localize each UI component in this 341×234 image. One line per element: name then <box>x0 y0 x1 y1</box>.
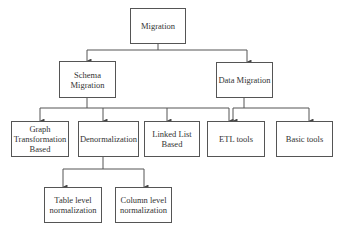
node-basic-tools: Basic tools <box>276 121 333 157</box>
node-column-level-line1: Column level <box>120 195 166 205</box>
node-column-level-line2: normalization <box>120 205 167 215</box>
node-etl-tools: ETL tools <box>207 121 265 157</box>
node-linked-list-line1: Linked List <box>152 129 191 139</box>
node-graph-transformation: Graph Transformation Based <box>11 121 69 157</box>
node-schema-migration-line2: Migration <box>71 80 105 90</box>
node-linked-list-line2: Based <box>162 139 183 149</box>
node-table-level-normalization: Table level normalization <box>44 187 102 223</box>
node-basic-tools-label: Basic tools <box>286 134 324 144</box>
node-graph-line1: Graph <box>29 124 50 134</box>
node-linked-list: Linked List Based <box>144 121 200 157</box>
node-schema-migration-line1: Schema <box>74 70 101 80</box>
node-graph-line3: Based <box>30 144 51 154</box>
node-schema-migration: Schema Migration <box>59 61 116 98</box>
node-migration-label: Migration <box>141 21 175 31</box>
node-denormalization: Denormalization <box>78 121 139 157</box>
node-column-level-normalization: Column level normalization <box>115 187 172 223</box>
node-graph-line2: Transformation <box>14 134 67 144</box>
node-etl-tools-label: ETL tools <box>219 134 253 144</box>
node-data-migration-label: Data Migration <box>218 75 270 85</box>
node-migration: Migration <box>130 8 186 44</box>
node-data-migration: Data Migration <box>216 62 273 98</box>
node-table-level-line2: normalization <box>49 205 96 215</box>
node-denormalization-label: Denormalization <box>80 134 137 144</box>
node-table-level-line1: Table level <box>54 195 91 205</box>
